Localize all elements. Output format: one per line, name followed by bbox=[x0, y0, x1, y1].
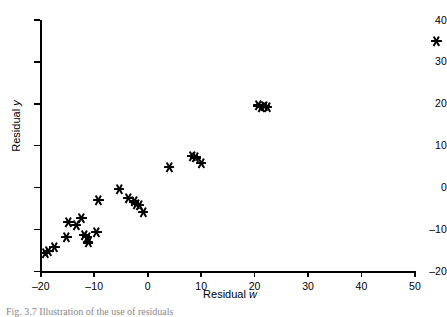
x-tick-label: –10 bbox=[74, 281, 114, 292]
y-tick-label: 30 bbox=[417, 56, 447, 67]
y-axis-variable: y bbox=[10, 100, 22, 106]
x-tick-mark bbox=[200, 271, 202, 277]
x-tick-mark bbox=[147, 271, 149, 277]
y-tick-mark bbox=[34, 19, 40, 21]
y-tick-mark bbox=[34, 145, 40, 147]
data-point bbox=[137, 207, 148, 218]
figure-caption: Fig. 3.7 Illustration of the use of resi… bbox=[6, 306, 173, 317]
y-tick-label: –10 bbox=[417, 224, 447, 235]
y-tick-mark bbox=[34, 229, 40, 231]
x-tick-mark bbox=[254, 271, 256, 277]
x-axis-title-text: Residual bbox=[203, 288, 249, 300]
x-tick-label: 40 bbox=[342, 281, 382, 292]
data-point bbox=[76, 212, 87, 223]
plot-area: –20–10010203040 –20–1001020304050 Residu… bbox=[0, 0, 447, 317]
x-tick-mark bbox=[40, 271, 42, 277]
x-tick-label: 50 bbox=[395, 281, 435, 292]
data-point bbox=[82, 237, 93, 248]
y-tick-label: 40 bbox=[417, 15, 447, 26]
y-tick-mark bbox=[34, 187, 40, 189]
y-tick-mark bbox=[34, 103, 40, 105]
data-point bbox=[164, 162, 175, 173]
data-point bbox=[261, 102, 272, 113]
x-tick-mark bbox=[414, 271, 416, 277]
x-tick-label: –20 bbox=[21, 281, 61, 292]
x-axis-variable: w bbox=[249, 288, 257, 300]
x-axis-line bbox=[40, 271, 415, 273]
x-tick-mark bbox=[361, 271, 363, 277]
data-point bbox=[91, 226, 102, 237]
y-tick-label: 10 bbox=[417, 140, 447, 151]
data-point bbox=[431, 35, 442, 46]
y-axis-line bbox=[40, 20, 42, 272]
y-tick-label: –20 bbox=[417, 266, 447, 277]
data-point bbox=[93, 194, 104, 205]
scatter-plot-figure: –20–10010203040 –20–1001020304050 Residu… bbox=[0, 0, 447, 317]
y-axis-title-text: Residual bbox=[10, 106, 22, 152]
data-point bbox=[49, 241, 60, 252]
x-tick-mark bbox=[93, 271, 95, 277]
y-tick-mark bbox=[34, 61, 40, 63]
data-point bbox=[61, 231, 72, 242]
x-axis-title: Residual w bbox=[150, 288, 310, 300]
x-tick-mark bbox=[307, 271, 309, 277]
y-tick-label: 20 bbox=[417, 98, 447, 109]
data-point bbox=[196, 158, 207, 169]
y-tick-label: 0 bbox=[417, 182, 447, 193]
y-axis-title: Residual y bbox=[10, 78, 22, 174]
